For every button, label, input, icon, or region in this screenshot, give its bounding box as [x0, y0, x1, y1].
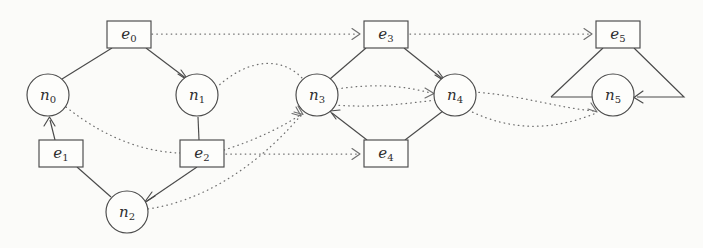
node-n5[interactable]: n5	[592, 74, 634, 116]
node-e2[interactable]: e2	[180, 140, 224, 167]
dotted-edge-path	[148, 114, 302, 209]
dotted-edge-e2-n3	[224, 107, 301, 150]
node-e5[interactable]: e5	[596, 21, 640, 48]
node-n3[interactable]: n3	[296, 74, 338, 116]
dotted-edge-path	[224, 115, 300, 150]
solid-edge-path	[332, 113, 367, 140]
dotted-edge-n3-n4-upper	[337, 86, 434, 98]
dotted-edge-n4-n5-upper	[474, 92, 597, 112]
node-layer: n0 n1 n2 n3 n4	[27, 21, 640, 233]
dotted-edge-n2-n3	[148, 106, 303, 209]
node-e4[interactable]: e4	[364, 140, 408, 167]
node-e0[interactable]: e0	[107, 21, 151, 48]
solid-edge-e2-n2	[144, 167, 197, 203]
solid-edge-loop-right	[634, 48, 684, 97]
solid-edge-e3-n4	[404, 48, 446, 82]
node-n1[interactable]: n1	[176, 74, 218, 116]
node-e3[interactable]: e3	[364, 21, 408, 48]
dotted-edge-path	[216, 63, 303, 88]
dotted-edge-e0-e3	[152, 29, 360, 40]
solid-edge-e2-n1	[198, 117, 199, 140]
dotted-edge-n3-n4-lower	[334, 100, 436, 106]
dotted-edge-e2-e4	[226, 149, 360, 160]
dotted-edge-n1-n3	[216, 63, 303, 88]
solid-edge-path	[146, 48, 187, 79]
solid-edge-layer	[44, 48, 684, 203]
solid-arrowhead	[44, 117, 55, 126]
graph-diagram-svg: n0 n1 n2 n3 n4	[0, 0, 703, 248]
dotted-edge-path	[468, 110, 594, 126]
node-n4[interactable]: n4	[434, 74, 476, 116]
diagram-canvas: n0 n1 n2 n3 n4	[0, 0, 703, 248]
node-n2[interactable]: n2	[106, 191, 148, 233]
solid-edge-e1-n2	[77, 167, 111, 197]
dotted-edge-path	[337, 86, 431, 93]
solid-edge-e4-n3	[330, 110, 367, 140]
solid-edge-e0-n0	[62, 48, 112, 79]
node-e1[interactable]: e1	[39, 140, 83, 167]
solid-edge-e3-n3	[330, 48, 366, 79]
dotted-edge-e3-e5	[410, 29, 592, 40]
solid-edge-e1-n0	[44, 117, 55, 140]
solid-edge-e0-n1	[146, 48, 189, 81]
node-n0[interactable]: n0	[27, 74, 69, 116]
dotted-edge-path	[334, 100, 436, 106]
dotted-arrowhead	[425, 88, 434, 98]
dotted-edge-n4-n5-lower	[468, 110, 594, 126]
dotted-edge-path	[474, 92, 595, 111]
solid-edge-path	[404, 48, 444, 80]
dotted-edge-layer	[66, 29, 597, 210]
solid-edge-e4-n4	[405, 111, 443, 140]
